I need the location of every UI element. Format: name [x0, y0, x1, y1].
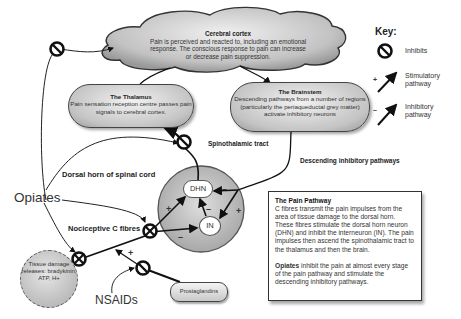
key-inhibitory-label: Inhibitory pathway [405, 103, 455, 119]
key-inhibits-label: Inhibits [405, 47, 427, 55]
plus-sign-prostaglandins: + [128, 248, 133, 258]
spinothalamic-tract-label: Spinothalamic tract [208, 140, 268, 147]
brainstem-box: The Brainstem Descending pathways from a… [230, 82, 370, 132]
thalamus-text: Pain sensation reception centre passes p… [69, 100, 193, 115]
opiates-label: Opiates [14, 190, 61, 205]
info-paragraph-2: Opiates inhibit the pain at almost every… [275, 262, 415, 286]
brainstem-text: Descending pathways from a number of reg… [231, 95, 369, 117]
thalamus-title: The Thalamus [69, 93, 193, 100]
key-title: Key: [375, 26, 397, 37]
brainstem-title: The Brainstem [231, 88, 369, 95]
pain-pathway-info-box: The Pain Pathway C fibres transmit the p… [268, 191, 422, 301]
inhibit-icon-spinothalamic [178, 136, 191, 149]
minus-sign-descending-dhn: – [222, 184, 227, 194]
key-minus-sign: – [373, 106, 377, 113]
key-inhibit-icon [379, 45, 392, 58]
dhn-node: DHN [183, 180, 213, 198]
cerebral-cortex-text: Pain is perceived and reacted to, includ… [148, 38, 308, 61]
cerebral-cortex-title: Cerebral cortex [148, 30, 308, 38]
key-stimulatory-label: Stimulatory pathway [405, 72, 455, 88]
minus-sign-cfibre-in: – [178, 232, 183, 242]
inhibit-icon-prostaglandins [137, 262, 150, 275]
dorsal-horn-label: Dorsal horn of spinal cord [62, 170, 155, 179]
cerebral-cortex: Cerebral cortex Pain is perceived and re… [148, 30, 308, 60]
in-node: IN [199, 216, 221, 236]
info-heading: The Pain Pathway [275, 197, 415, 205]
plus-sign-cfibre-dhn: + [166, 204, 171, 214]
info-paragraph-1: C fibres transmit the pain impulses from… [275, 205, 415, 254]
key-stimulatory-arrow-icon [378, 73, 396, 92]
thalamus-box: The Thalamus Pain sensation reception ce… [68, 84, 194, 128]
prostaglandins-node: Prostaglandins [170, 282, 228, 302]
inhibit-icon-cfibres [144, 225, 157, 238]
descending-pathways-label: Descending inhibitory pathways [300, 157, 400, 164]
info-opiates-bold: Opiates [275, 262, 299, 269]
nociceptive-label: Nociceptive C fibres [68, 224, 140, 233]
key-inhibitory-arrow-icon [378, 105, 396, 125]
tissue-damage-node: Tissue damage releases: bradykinin, ATP,… [20, 250, 78, 308]
inhibit-icon-cortex [51, 43, 64, 56]
plus-sign-descending-in: + [236, 206, 241, 216]
key-plus-sign: + [373, 76, 377, 83]
inhibit-icon-tissue [73, 253, 86, 266]
nsaids-label: NSAIDs [95, 293, 138, 307]
minus-sign-in-dhn: – [206, 204, 211, 214]
